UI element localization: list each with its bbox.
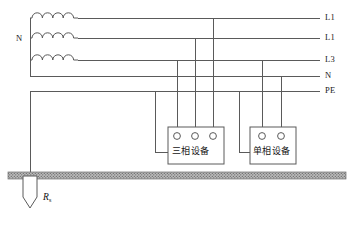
rail-lines	[30, 18, 320, 91]
ground-band	[8, 172, 346, 179]
diagram-canvas	[0, 0, 354, 228]
terminal-1ph-2	[278, 133, 285, 140]
earth-resistance-label: Rs	[43, 193, 51, 203]
rail-label-l2: L1	[325, 33, 335, 42]
rail-label-l3: L3	[325, 55, 335, 64]
terminal-3ph-3	[210, 133, 217, 140]
rail-label-n: N	[325, 71, 331, 80]
transformer-windings	[30, 13, 78, 76]
terminal-3ph-2	[192, 133, 199, 140]
terminal-1ph-1	[259, 133, 266, 140]
rail-label-pe: PE	[325, 86, 335, 95]
drop-pe-three-phase	[155, 91, 168, 152]
winding-l2	[30, 33, 78, 38]
drop-pe-single-phase	[239, 91, 250, 152]
rail-label-l1: L1	[325, 13, 335, 22]
three-phase-load-label: 三相设备	[172, 147, 210, 156]
single-phase-load-label: 单相设备	[253, 147, 291, 156]
transformer-neutral-label: N	[16, 34, 22, 43]
terminal-3ph-1	[174, 133, 181, 140]
earth-resistance-subscript: s	[49, 197, 51, 203]
earth-electrode-rod	[23, 176, 37, 208]
winding-l3	[30, 55, 78, 60]
earth-resistance-symbol: R	[43, 192, 49, 202]
winding-l1	[30, 13, 78, 18]
tn-s-system-diagram: N L1 L1 L3 N PE 三相设备 单相设备 Rs	[0, 0, 354, 228]
